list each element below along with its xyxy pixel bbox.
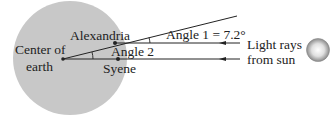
eratosthenes-diagram: Center of earth Alexandria Angle 2 Syene… — [0, 0, 334, 115]
alexandria-label: Alexandria — [70, 28, 130, 43]
earth-circle — [13, 1, 127, 115]
light-rays-label-line1: Light rays — [247, 37, 302, 52]
center-label-line1: Center of — [15, 42, 66, 57]
center-point — [61, 57, 65, 61]
angle-1-label: Angle 1 = 7.2° — [166, 27, 246, 42]
sun-icon — [307, 39, 330, 62]
syene-label: Syene — [103, 61, 136, 76]
light-rays-label-line2: from sun — [247, 52, 296, 67]
angle-1-arc — [149, 38, 150, 44]
angle-2-label: Angle 2 — [111, 44, 154, 59]
arrow-icon — [219, 57, 226, 61]
center-label-line2: earth — [26, 59, 53, 74]
